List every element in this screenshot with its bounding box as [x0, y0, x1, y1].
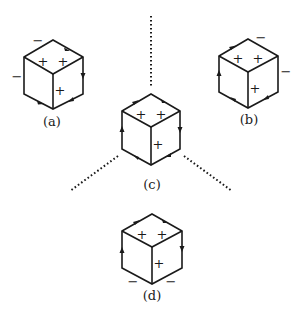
cube-d-inner-top — [122, 231, 182, 247]
arrow-icon — [120, 247, 125, 253]
face-sign: + — [250, 81, 261, 96]
cube-c-label: (c) — [143, 177, 160, 192]
cube-b-label: (b) — [240, 112, 258, 127]
cube-d-label: (d) — [143, 288, 161, 303]
face-sign: + — [253, 51, 264, 66]
edge-sign: − — [281, 64, 292, 79]
arrow-icon — [263, 95, 269, 100]
arrow-icon — [230, 97, 236, 102]
arrow-icon — [81, 73, 86, 79]
cube-a: + + + − − (a) — [12, 33, 86, 129]
cube-b-inner-top — [219, 56, 278, 72]
edge-sign: − — [256, 30, 267, 45]
face-sign: + — [55, 83, 66, 98]
arrow-icon — [37, 101, 44, 105]
arrow-icon — [178, 127, 183, 133]
arrow-icon — [217, 70, 222, 76]
arrow-icon — [180, 246, 185, 252]
dotted-axis-right — [184, 156, 232, 191]
cube-c-inner-top — [122, 111, 180, 127]
face-sign: + — [136, 107, 147, 122]
edge-sign: − — [166, 274, 177, 289]
edge-sign: − — [33, 33, 44, 48]
edge-sign: − — [12, 69, 23, 84]
cube-diagram: + + + − − (a) + + + − − (b) + — [0, 0, 299, 317]
face-sign: + — [137, 227, 148, 242]
arrow-icon — [133, 155, 139, 160]
cube-d: + + + − − (d) — [120, 214, 185, 303]
arrow-icon — [68, 97, 74, 102]
edge-sign: − — [128, 274, 139, 289]
cube-c: + + + (c) — [120, 94, 183, 192]
face-sign: + — [157, 227, 168, 242]
face-sign: + — [233, 51, 244, 66]
face-sign: + — [156, 107, 167, 122]
face-sign: + — [58, 54, 69, 69]
face-sign: + — [153, 137, 164, 152]
cube-a-label: (a) — [43, 114, 61, 129]
dotted-axis-left — [70, 156, 118, 191]
face-sign: + — [38, 54, 49, 69]
arrow-icon — [120, 126, 125, 132]
face-sign: + — [154, 256, 165, 271]
cube-a-inner-top — [24, 57, 83, 74]
cube-b: + + + − − (b) — [217, 30, 292, 127]
